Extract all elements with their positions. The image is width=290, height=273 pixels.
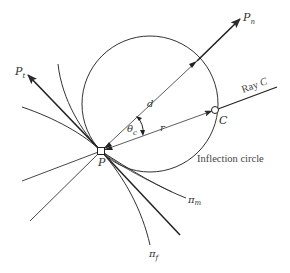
left-line-lower (30, 151, 101, 221)
pi-m-curve (101, 151, 186, 198)
curve-upper-left-outer (22, 107, 101, 151)
inflection-circle-diagram: Pn Pt d r θc P C Ray C Inflection circle… (0, 0, 290, 273)
pi-f-curve (101, 151, 150, 245)
label-pn: Pn (242, 11, 255, 26)
label-pi-f: πf (148, 248, 160, 262)
curve-upper-left-inner (58, 64, 101, 151)
label-pt: Pt (14, 65, 25, 80)
label-d: d (147, 98, 153, 109)
pole-normal-arrow (197, 19, 240, 61)
theta-arrow-top (136, 116, 142, 121)
label-p: P (97, 156, 106, 169)
left-line-upper (22, 151, 101, 181)
r-line (104, 111, 212, 150)
label-r: r (160, 122, 166, 133)
tangent-extension-line (101, 151, 180, 235)
point-c-marker (212, 107, 219, 114)
label-inflection-circle: Inflection circle (197, 153, 264, 164)
label-c: C (219, 114, 228, 127)
label-pi-m: πm (187, 194, 202, 207)
point-p-marker (98, 148, 105, 155)
label-theta-c: θc (127, 123, 137, 137)
